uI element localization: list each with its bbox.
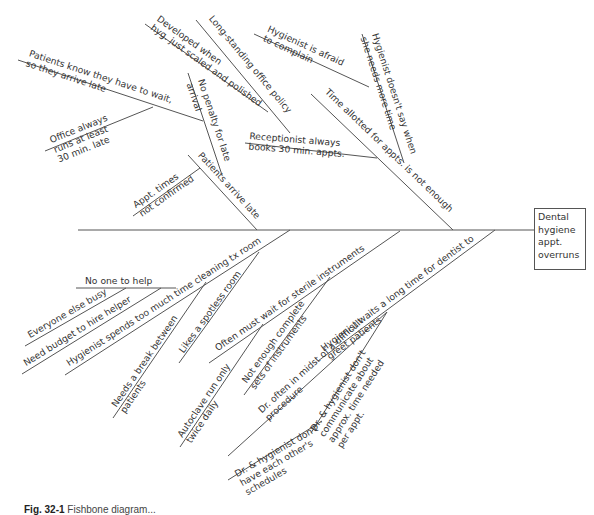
effect-box: Dental hygiene appt. overruns [534, 208, 586, 270]
effect-line: appt. [538, 236, 582, 249]
bone-patients-know-wait: Patients know they have to wait,so they … [18, 48, 203, 121]
bone-hygienist-afraid: Hygienist is afraidto complain [254, 23, 369, 87]
figure-label: Fig. 32-1 [24, 504, 65, 515]
bone-cleaning-tx-room: Hygienist spends too much time cleaning … [64, 230, 290, 375]
effect-line: hygiene [538, 224, 582, 237]
bone-line [311, 94, 453, 230]
bone-appt-times-not-confirmed: Appt. timesnot confirmed [131, 168, 200, 219]
bone-hygienist-waits: Hygienist waits a long time for dentist … [318, 230, 495, 361]
bone-receptionist-books: Receptionist alwaysbooks 30 min. appts. [245, 130, 377, 159]
bone-line [188, 155, 257, 230]
bone-office-runs-late: Office alwaysruns at least30 min. late [45, 107, 153, 164]
bones: Patients arrive lateNo penalty for latea… [18, 13, 495, 497]
bone-line [65, 230, 290, 375]
fishbone-diagram: Patients arrive lateNo penalty for latea… [0, 0, 594, 515]
bone-label: No one to help [85, 275, 153, 286]
effect-line: Dental [538, 211, 582, 224]
effect-line: overruns [538, 249, 582, 262]
bone-dr-schedules: Dr. & hygienist don'thave each other'ssc… [228, 421, 322, 497]
figure-caption: Fig. 32-1 Fishbone diagram... [24, 504, 156, 515]
bone-no-one-to-help: No one to help [76, 275, 176, 288]
figure-caption-text: Fishbone diagram... [67, 504, 155, 515]
